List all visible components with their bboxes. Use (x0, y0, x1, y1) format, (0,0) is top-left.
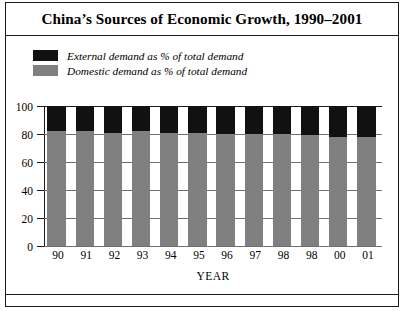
bar-segment-domestic (245, 134, 263, 246)
x-tick-label: 01 (354, 249, 382, 261)
bar-segment-external (216, 106, 234, 134)
y-tick-label-40: 40 (22, 185, 34, 197)
y-tick-100: 100 (37, 106, 44, 107)
y-tick-label-20: 20 (22, 213, 34, 225)
bar-slot (269, 106, 297, 246)
y-tick-60: 60 (37, 162, 44, 163)
figure-frame: China’s Sources of Economic Growth, 1990… (5, 2, 399, 307)
x-tick-label: 96 (213, 249, 241, 261)
bar-slot (241, 106, 269, 246)
x-tick-label: 98 (298, 249, 326, 261)
bar-segment-domestic (216, 134, 234, 246)
bar-segment-domestic (329, 137, 347, 246)
legend-swatch-domestic-icon (33, 65, 58, 76)
bar-segment-domestic (188, 133, 206, 246)
legend-label-external: External demand as % of total demand (67, 50, 243, 62)
stacked-bar[interactable] (245, 106, 263, 246)
bar-slot (326, 106, 354, 246)
bar-series-group (44, 106, 382, 246)
bar-slot (44, 106, 72, 246)
y-tick-label-100: 100 (16, 101, 33, 113)
legend-item-external: External demand as % of total demand (33, 48, 247, 63)
bar-segment-domestic (132, 131, 150, 246)
bar-segment-external (132, 106, 150, 131)
bar-segment-domestic (104, 133, 122, 246)
bar-slot (157, 106, 185, 246)
stacked-bar[interactable] (216, 106, 234, 246)
x-tick-label: 95 (185, 249, 213, 261)
x-tick-label: 92 (100, 249, 128, 261)
plot-area: 020406080100 (44, 106, 382, 246)
stacked-bar[interactable] (273, 106, 291, 246)
page-title: China’s Sources of Economic Growth, 1990… (42, 10, 363, 28)
chart-legend: External demand as % of total demand Dom… (33, 48, 247, 78)
gridline-0 (44, 246, 382, 247)
y-tick-40: 40 (37, 190, 44, 191)
bar-segment-domestic (301, 135, 319, 246)
bar-segment-external (160, 106, 178, 133)
stacked-bar[interactable] (329, 106, 347, 246)
stacked-bar[interactable] (301, 106, 319, 246)
stacked-bar[interactable] (357, 106, 375, 246)
bar-segment-external (245, 106, 263, 134)
y-tick-80: 80 (37, 134, 44, 135)
x-tick-label: 00 (326, 249, 354, 261)
bar-slot (298, 106, 326, 246)
y-tick-label-0: 0 (27, 241, 33, 253)
bar-segment-domestic (273, 134, 291, 246)
x-tick-label: 94 (157, 249, 185, 261)
bar-slot (213, 106, 241, 246)
bar-slot (100, 106, 128, 246)
bar-segment-external (76, 106, 94, 131)
x-tick-label: 90 (44, 249, 72, 261)
x-tick-label: 98 (269, 249, 297, 261)
bar-segment-domestic (76, 131, 94, 246)
chart-panel: External demand as % of total demand Dom… (6, 36, 398, 295)
legend-item-domestic: Domestic demand as % of total demand (33, 63, 247, 78)
legend-swatch-external-icon (33, 50, 58, 61)
bar-segment-external (47, 106, 65, 131)
x-axis-title: YEAR (44, 270, 382, 282)
bar-slot (354, 106, 382, 246)
bar-segment-external (357, 106, 375, 137)
x-tick-label: 97 (241, 249, 269, 261)
bar-segment-domestic (160, 133, 178, 246)
lower-blank-panel (6, 295, 398, 306)
bar-segment-external (329, 106, 347, 137)
y-tick-label-80: 80 (22, 129, 34, 141)
bar-segment-domestic (357, 137, 375, 246)
bar-segment-external (104, 106, 122, 133)
stacked-bar[interactable] (76, 106, 94, 246)
y-tick-0: 0 (37, 246, 44, 247)
title-band: China’s Sources of Economic Growth, 1990… (6, 3, 398, 36)
x-tick-label: 93 (129, 249, 157, 261)
stacked-bar[interactable] (160, 106, 178, 246)
bar-slot (72, 106, 100, 246)
bar-segment-external (301, 106, 319, 135)
stacked-bar[interactable] (47, 106, 65, 246)
legend-label-domestic: Domestic demand as % of total demand (67, 65, 247, 77)
bar-slot (185, 106, 213, 246)
stacked-bar[interactable] (104, 106, 122, 246)
x-tick-label: 91 (72, 249, 100, 261)
x-axis-tick-labels: 909192939495969798980001 (44, 249, 382, 261)
bar-segment-external (188, 106, 206, 133)
y-tick-label-60: 60 (22, 157, 34, 169)
bar-slot (129, 106, 157, 246)
y-tick-20: 20 (37, 218, 44, 219)
stacked-bar[interactable] (188, 106, 206, 246)
bar-segment-external (273, 106, 291, 134)
stacked-bar[interactable] (132, 106, 150, 246)
bar-segment-domestic (47, 131, 65, 246)
